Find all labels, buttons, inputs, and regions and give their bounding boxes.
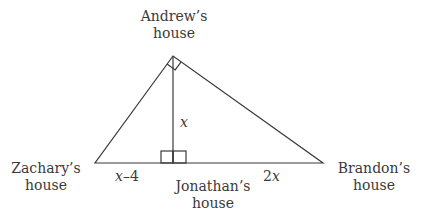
brandons-house-line2: house (332, 177, 416, 194)
zacharys-house-line2: house (6, 177, 86, 194)
left-base-var: x (115, 168, 123, 184)
left-base-offset: –4 (123, 168, 139, 184)
right-angle-marker-foot-right (173, 151, 186, 163)
jonathans-house-line2: house (165, 195, 261, 212)
zacharys-house-line1: Zachary’s (6, 160, 86, 177)
andrews-house-line1: Andrew’s (134, 8, 214, 25)
right-base-coef: 2 (263, 168, 272, 184)
right-angle-marker-foot-left (161, 151, 173, 163)
right-base-var: x (272, 168, 280, 184)
altitude-length-label: x (180, 114, 188, 130)
triangle-diagram: Andrew’s house Zachary’s house Jonathan’… (0, 0, 424, 224)
zacharys-house-label: Zachary’s house (6, 160, 86, 194)
brandons-house-line1: Brandon’s (332, 160, 416, 177)
andrews-house-line2: house (134, 25, 214, 42)
andrews-house-label: Andrew’s house (134, 8, 214, 42)
jonathans-house-label: Jonathan’s house (165, 178, 261, 212)
right-base-length-label: 2x (263, 168, 280, 184)
brandons-house-label: Brandon’s house (332, 160, 416, 194)
left-base-length-label: x–4 (115, 168, 139, 184)
altitude-var: x (180, 114, 188, 130)
right-angle-marker-apex (167, 62, 181, 70)
jonathans-house-line1: Jonathan’s (165, 178, 261, 195)
triangle-outline (95, 56, 323, 163)
